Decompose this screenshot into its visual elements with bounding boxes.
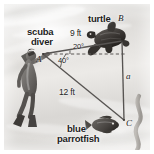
side-bc (122, 41, 124, 120)
diver-icon (13, 49, 48, 127)
kelp-strand-icon (136, 96, 141, 150)
turtle-icon (87, 22, 130, 56)
label-angle-20: 20° (73, 43, 84, 51)
vertex-b-dot (121, 40, 123, 42)
label-side-ab-length: 9 ft (70, 29, 81, 38)
label-scuba-diver-line2: diver (31, 37, 53, 47)
fish-icon (85, 116, 119, 134)
vertex-label-a: A (36, 55, 41, 64)
label-turtle: turtle (88, 14, 111, 24)
label-angle-40: 40° (58, 57, 69, 65)
side-ac (43, 54, 124, 120)
vertex-a-dot (42, 53, 44, 55)
vertex-label-b: B (118, 14, 123, 23)
label-side-ac-length: 12 ft (59, 88, 75, 97)
geometry-figure: scuba diver turtle blue parrotfish 9 ft … (0, 0, 154, 154)
vertex-label-c: C (126, 119, 132, 128)
vertex-c-dot (123, 119, 125, 121)
label-parrotfish-line2: parrotfish (57, 134, 99, 144)
label-side-bc-length: a (126, 72, 130, 81)
